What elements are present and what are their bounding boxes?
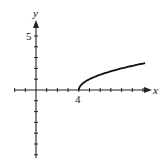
y-axis-label: y (32, 7, 38, 19)
x-tick-label-4: 4 (75, 93, 81, 105)
y-axis-arrow-icon (33, 20, 39, 28)
graph: x y 4 5 (0, 0, 164, 164)
x-axis-arrow-icon (144, 87, 152, 93)
y-tick-label-5: 5 (26, 30, 32, 42)
function-curve (79, 63, 145, 90)
x-axis-label: x (152, 84, 158, 96)
